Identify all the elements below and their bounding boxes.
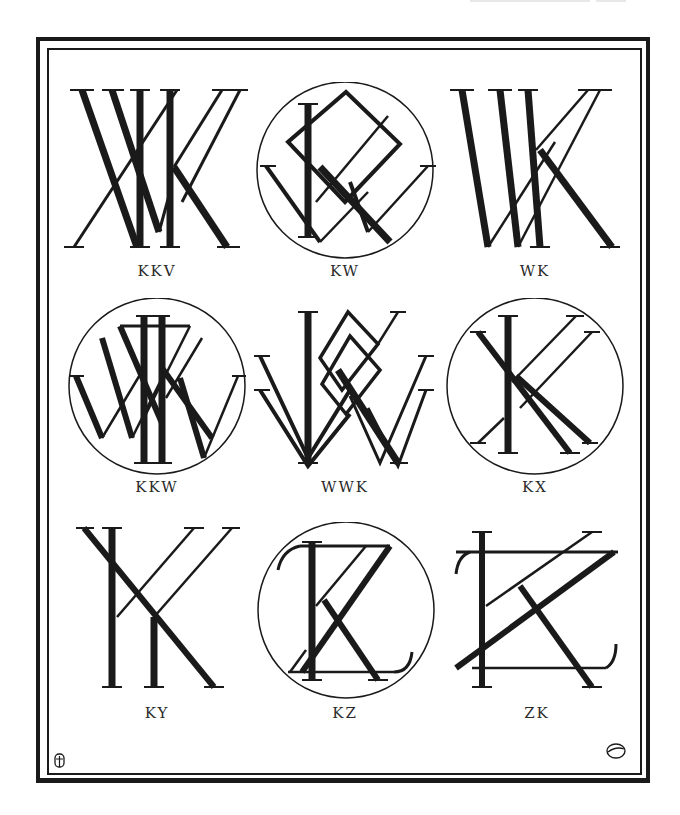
monogram-wk-glyph [440, 82, 630, 262]
monogram-label: KKW [62, 478, 252, 496]
monogram-kz-glyph [250, 522, 440, 702]
enclosing-circle [257, 82, 433, 258]
artist-mark-icon [53, 752, 67, 770]
monogram-kx: KX [440, 298, 630, 518]
monogram-kw-glyph [250, 82, 440, 262]
monogram-label: KKV [62, 262, 252, 280]
monogram-label: ZK [442, 704, 632, 722]
monogram-label: KX [440, 478, 630, 496]
monogram-wwk: WWK [250, 298, 440, 518]
monogram-wwk-glyph [250, 298, 440, 478]
monogram-label: WWK [250, 478, 440, 496]
monogram-zk-glyph [442, 522, 632, 702]
monogram-kz: KZ [250, 522, 440, 742]
monogram-wk: WK [440, 82, 630, 302]
circled-six-mark-icon [604, 740, 628, 760]
monogram-kkv: KKV [62, 82, 252, 302]
monogram-kx-glyph [440, 298, 630, 478]
monogram-kw: KW [250, 82, 440, 302]
monogram-label: KY [62, 704, 252, 722]
monogram-zk: ZK [442, 522, 632, 742]
running-header-faint [470, 0, 670, 6]
monogram-kkw: KKW [62, 298, 252, 518]
monogram-ky-glyph [62, 522, 252, 702]
enclosing-circle [447, 298, 623, 474]
monogram-label: KZ [250, 704, 440, 722]
monogram-label: WK [440, 262, 630, 280]
monogram-ky: KY [62, 522, 252, 742]
monogram-kkv-glyph [62, 82, 252, 262]
monogram-kkw-glyph [62, 298, 252, 478]
monogram-label: KW [250, 262, 440, 280]
